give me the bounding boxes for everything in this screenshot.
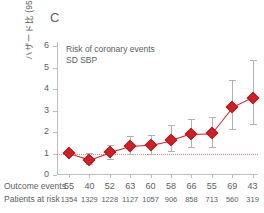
data-point-marker: [124, 140, 137, 153]
chart-panel: C ハザード比 (95% CI) 6543210 Risk of coronar…: [0, 0, 264, 213]
patients-at-risk-value: 319: [239, 193, 264, 206]
confidence-interval-cap: [168, 125, 175, 126]
y-axis-tick-label: 4: [44, 83, 49, 93]
y-axis-tick-label: 3: [44, 105, 49, 115]
confidence-interval-cap: [107, 159, 114, 160]
y-axis-tick-label: 6: [44, 40, 49, 50]
row-label-patients-at-risk: Patients at risk: [4, 193, 60, 205]
confidence-interval-cap: [148, 135, 155, 136]
plot-area: [57, 42, 258, 175]
y-axis-tick-label: 0: [44, 169, 49, 179]
data-point-marker: [83, 153, 96, 166]
data-point-marker: [63, 147, 76, 160]
confidence-interval-cap: [168, 151, 175, 152]
y-axis-tick: 0: [0, 175, 57, 176]
confidence-interval-cap: [229, 80, 236, 81]
data-point-marker: [185, 127, 198, 140]
confidence-interval-cap: [209, 147, 216, 148]
confidence-interval-cap: [188, 147, 195, 148]
y-axis-tick: 6: [0, 46, 57, 47]
confidence-interval-cap: [250, 124, 257, 125]
confidence-interval-cap: [209, 117, 216, 118]
y-axis-tick: 4: [0, 89, 57, 90]
data-point-marker: [144, 139, 157, 152]
y-axis-tick-label: 5: [44, 62, 49, 72]
y-axis-tick: 3: [0, 111, 57, 112]
outcome-events-value: 43: [239, 180, 264, 193]
confidence-interval-cap: [250, 60, 257, 61]
table-row-patients-at-risk: Patients at risk 13541329122811271057906…: [0, 193, 264, 206]
y-axis-tick: 2: [0, 132, 57, 133]
y-axis-tick-label: 2: [44, 126, 49, 136]
data-point-marker: [103, 146, 116, 159]
confidence-interval-cap: [188, 119, 195, 120]
table-row-outcome-events: Outcome events 55405263605866556943: [0, 180, 264, 193]
confidence-interval-cap: [229, 129, 236, 130]
confidence-interval-cap: [148, 154, 155, 155]
panel-letter: C: [50, 10, 59, 25]
confidence-interval-cap: [127, 136, 134, 137]
y-axis-tick-label: 1: [44, 148, 49, 158]
risk-table: Outcome events 55405263605866556943 Pati…: [0, 180, 264, 206]
data-point-marker: [246, 91, 259, 104]
y-axis-tick: 1: [0, 154, 57, 155]
confidence-interval-cap: [127, 154, 134, 155]
y-axis-label: ハザード比 (95% CI): [22, 0, 34, 60]
y-axis-tick-mark: [53, 175, 57, 176]
y-axis-tick: 5: [0, 68, 57, 69]
data-point-marker: [165, 134, 178, 147]
